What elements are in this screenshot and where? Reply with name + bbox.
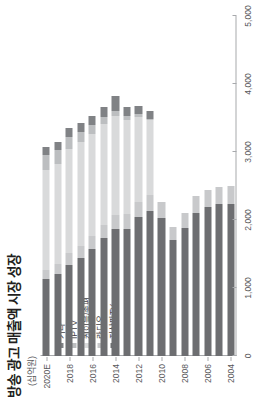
bar-row (215, 16, 222, 356)
bar-segment (54, 274, 61, 356)
value-axis-line (235, 16, 236, 356)
bar-segment (42, 279, 49, 356)
bar-segment (100, 238, 107, 356)
bar-segment (77, 258, 84, 356)
bar-segment (181, 213, 188, 229)
value-tick-label: 3,000 (242, 141, 252, 162)
bar-row (169, 16, 176, 356)
bar-segment (146, 120, 153, 195)
value-tick-mark (232, 151, 236, 152)
bar-segment (204, 190, 211, 207)
category-tick-label: 2008 (179, 364, 189, 383)
bar-segment (100, 107, 107, 117)
bar-segment (54, 142, 61, 150)
value-axis-unit-label: (십억원) (24, 356, 37, 386)
bar-row (88, 16, 95, 356)
bar-segment (42, 270, 49, 280)
value-tick-label: 2,000 (242, 209, 252, 230)
bar-segment (100, 117, 107, 124)
value-tick-label: 5,000 (242, 5, 252, 26)
bar-segment (215, 187, 222, 204)
bar-segment (42, 147, 49, 155)
category-tick-mark (161, 357, 162, 361)
category-tick-mark (46, 357, 47, 361)
category-tick-mark (138, 357, 139, 361)
bar-segment (88, 125, 95, 133)
category-tick-mark (184, 357, 185, 361)
bar-segment (88, 134, 95, 236)
chart-title: 방송 광고 매출액 시장 성장 (2, 254, 22, 398)
bar-segment (157, 202, 164, 218)
bar-row (157, 16, 164, 356)
bar-segment (192, 196, 199, 212)
bar-segment (134, 202, 141, 218)
value-tick-mark (232, 219, 236, 220)
bar-row (111, 16, 118, 356)
bar-row (227, 16, 234, 356)
bar-segment (123, 214, 130, 229)
bar-segment (65, 149, 72, 253)
bar-row (123, 16, 130, 356)
bar-segment (123, 120, 130, 214)
rotated-chart-stage: 방송 광고 매출액 시장 성장 (십억원) 기타IPTV케이블/종편라디오지상파… (0, 0, 273, 400)
bar-segment (77, 123, 84, 132)
plot-area: 01,0002,0003,0004,0005,000 2004200620082… (40, 16, 236, 356)
bar-row (146, 16, 153, 356)
value-tick-mark (232, 287, 236, 288)
category-tick-mark (230, 357, 231, 361)
bar-row (77, 16, 84, 356)
bar-row (134, 16, 141, 356)
bar-segment (169, 227, 176, 241)
bar-segment (111, 96, 118, 111)
category-tick-mark (92, 357, 93, 361)
bar-segment (146, 119, 153, 120)
bar-segment (88, 249, 95, 356)
bar-segment (134, 117, 141, 202)
category-tick-label: 2014 (110, 364, 120, 383)
category-tick-mark (115, 357, 116, 361)
bar-segment (146, 195, 153, 211)
bar-segment (77, 246, 84, 258)
bar-row (54, 16, 61, 356)
bar-segment (77, 142, 84, 245)
bar-segment (227, 186, 234, 204)
bar-segment (88, 236, 95, 249)
bar-segment (54, 150, 61, 164)
bar-segment (146, 211, 153, 356)
bar-row (192, 16, 199, 356)
bar-segment (123, 107, 130, 116)
bar-segment (204, 207, 211, 356)
value-tick-mark (232, 83, 236, 84)
bar-segment (227, 204, 234, 356)
category-tick-label: 2004 (225, 364, 235, 383)
value-tick-mark (232, 15, 236, 16)
bar-segment (134, 114, 141, 117)
bar-segment (54, 164, 61, 265)
bar-segment (192, 213, 199, 356)
bar-segment (111, 215, 118, 229)
bar-row (65, 16, 72, 356)
bar-row (42, 16, 49, 356)
bar-segment (77, 132, 84, 142)
bar-segment (88, 116, 95, 126)
bar-segment (100, 225, 107, 239)
bar-segment (123, 229, 130, 356)
bar-segment (111, 229, 118, 356)
value-tick-label: 4,000 (242, 73, 252, 94)
bar-segment (134, 106, 141, 114)
category-tick-label: 2006 (202, 364, 212, 383)
bar-segment (65, 137, 72, 149)
category-tick-label: 2010 (156, 364, 166, 383)
value-tick-label: 0 (242, 354, 252, 359)
bar-segment (111, 111, 118, 116)
bar-segment (123, 116, 130, 120)
category-tick-mark (69, 357, 70, 361)
bar-segment (65, 265, 72, 356)
bar-segment (100, 124, 107, 225)
category-tick-label: 2018 (64, 364, 74, 383)
category-tick-mark (207, 357, 208, 361)
bar-segment (65, 253, 72, 265)
bar-segment (157, 218, 164, 356)
bar-segment (42, 170, 49, 270)
value-tick-mark (232, 355, 236, 356)
